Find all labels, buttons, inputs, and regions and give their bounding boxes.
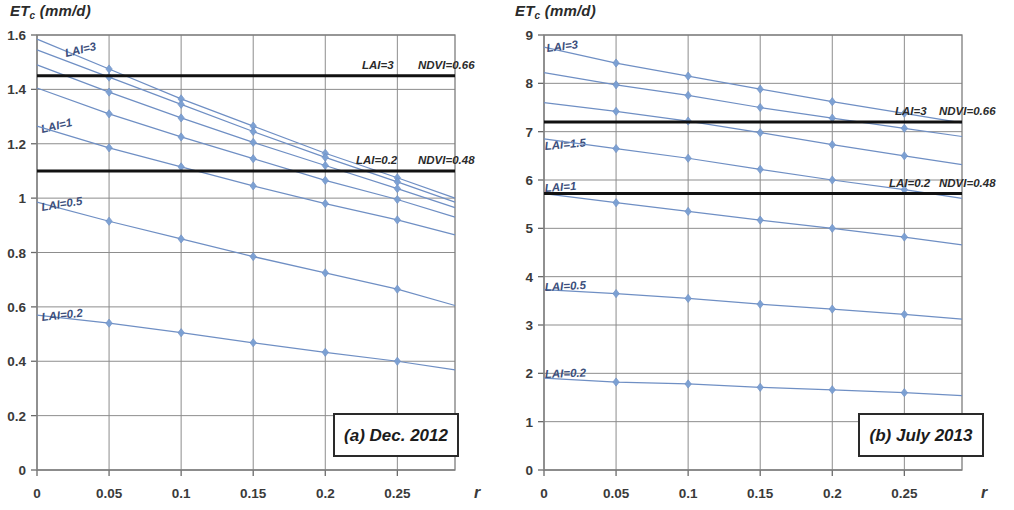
plot-area (544, 35, 962, 470)
panel-caption-label: (b) July 2013 (870, 426, 974, 445)
x-axis-tick-label: 0.1 (679, 486, 698, 501)
x-axis-tick-label: 0.05 (96, 486, 123, 501)
x-axis-tick-label: 0.15 (240, 486, 267, 501)
y-axis-tick-label: 1.2 (7, 137, 26, 152)
reference-line-label-lai: LAI=3 (895, 105, 927, 117)
panel-b: ETc (mm/d) 012345678900.050.10.150.20.25… (507, 0, 1014, 510)
y-axis-tick-label: 6 (525, 173, 533, 188)
y-axis-tick-label: 1.6 (7, 28, 26, 43)
reference-line-label-ndvi: NDVI=0.66 (939, 105, 996, 117)
x-axis-tick-label: 0.2 (316, 486, 335, 501)
x-axis-tick-label: 0 (33, 486, 41, 501)
reference-line-label-ndvi: NDVI=0.48 (418, 154, 475, 166)
x-axis-tick-label: 0.1 (172, 486, 191, 501)
reference-line-label-lai: LAI=0.2 (889, 177, 931, 189)
y-axis-tick-label: 0.4 (7, 354, 26, 369)
x-axis-variable-label: r (474, 484, 481, 501)
x-axis-tick-label: 0.05 (603, 486, 630, 501)
y-axis-tick-label: 9 (525, 28, 533, 43)
x-axis-tick-label: 0.2 (823, 486, 842, 501)
panel-a: ETc (mm/d) 00.20.40.60.811.21.41.600.050… (0, 0, 507, 510)
x-axis-tick-label: 0.15 (747, 486, 774, 501)
y-axis-tick-label: 2 (525, 366, 533, 381)
reference-line-label-lai: LAI=0.2 (356, 154, 398, 166)
series-inline-label: LAI=0.2 (545, 367, 587, 380)
y-axis-tick-label: 0 (18, 463, 26, 478)
y-axis-tick-label: 0.6 (7, 300, 26, 315)
y-axis-tick-label: 0.2 (7, 409, 26, 424)
reference-line-label-ndvi: NDVI=0.48 (939, 177, 996, 189)
x-axis-tick-label: 0.25 (384, 486, 411, 501)
y-axis-tick-label: 1 (525, 415, 533, 430)
figure-two-panel-chart: ETc (mm/d) 00.20.40.60.811.21.41.600.050… (0, 0, 1014, 510)
panel-caption-label: (a) Dec. 2012 (344, 426, 448, 445)
x-axis-tick-label: 0.25 (891, 486, 918, 501)
series-inline-label: LAI=0.5 (544, 279, 586, 293)
panel-a-plot: 00.20.40.60.811.21.41.600.050.10.150.20.… (0, 0, 507, 510)
panel-b-plot: 012345678900.050.10.150.20.25rLAI=3LAI=1… (507, 0, 1014, 510)
series-inline-label: LAI=1 (544, 180, 576, 194)
y-axis-tick-label: 3 (525, 318, 533, 333)
y-axis-tick-label: 5 (525, 221, 533, 236)
reference-line-label-ndvi: NDVI=0.66 (418, 59, 475, 71)
y-axis-tick-label: 1.4 (7, 82, 26, 97)
y-axis-tick-label: 7 (525, 125, 533, 140)
reference-line-label-lai: LAI=3 (362, 59, 394, 71)
y-axis-tick-label: 0.8 (7, 246, 26, 261)
y-axis-tick-label: 0 (525, 463, 533, 478)
x-axis-tick-label: 0 (540, 486, 548, 501)
y-axis-tick-label: 1 (18, 191, 26, 206)
y-axis-tick-label: 4 (525, 270, 533, 285)
x-axis-variable-label: r (981, 484, 988, 501)
y-axis-tick-label: 8 (525, 76, 533, 91)
